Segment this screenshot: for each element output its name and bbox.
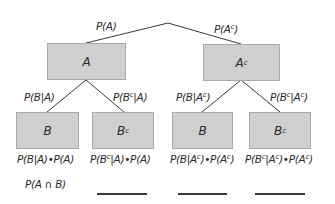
product-text: ) xyxy=(309,153,313,165)
edge-label-text: P(B xyxy=(113,91,130,103)
node-B-under-A: B xyxy=(16,112,79,149)
edge-label-P-Ac: P(Ac) xyxy=(214,23,238,35)
edge-label-P-Bc-given-Ac: P(Bc|Ac) xyxy=(270,91,308,103)
node-label: A xyxy=(235,56,243,70)
product-text: P(B|A)•P(A) xyxy=(17,153,74,165)
edge-label-text: P(B|A) xyxy=(24,91,55,103)
edge-label-text: P(A xyxy=(214,23,231,35)
edge-label-text: |A xyxy=(290,91,300,103)
edge-label-P-Bc-given-A: P(Bc|A) xyxy=(113,91,147,103)
edge-label-P-A: P(A) xyxy=(96,20,117,32)
product-text: P(B|A xyxy=(170,153,197,165)
edge-label-text: |A) xyxy=(133,91,147,103)
answer-blank-2[interactable] xyxy=(178,193,227,195)
node-B-under-Ac: B xyxy=(172,112,233,149)
node-label: B xyxy=(43,124,51,138)
edge-label-text: P(B xyxy=(270,91,287,103)
edge-label-text: P(A) xyxy=(96,20,117,32)
product-text: P(B xyxy=(245,153,262,165)
edge-label-text: ) xyxy=(304,91,308,103)
edge-label-P-B-given-A: P(B|A) xyxy=(24,91,55,103)
product-text: ) xyxy=(230,153,234,165)
product-label-4: P(Bc|Ac)•P(Ac) xyxy=(245,153,313,165)
node-label: B xyxy=(198,124,206,138)
node-label: B xyxy=(274,124,282,138)
node-label: A xyxy=(82,55,90,69)
node-A: A xyxy=(47,43,126,80)
node-Bc-under-Ac: Bc xyxy=(249,112,311,149)
product-text: |A)•P(A) xyxy=(110,153,150,165)
answer-blank-3[interactable] xyxy=(255,193,305,195)
product-label-2: P(Bc|A)•P(A) xyxy=(90,153,151,165)
product-text: )•P(A xyxy=(279,153,305,165)
product-label-3: P(B|Ac)•P(Ac) xyxy=(170,153,234,165)
answer-blank-1[interactable] xyxy=(97,193,147,195)
node-Bc-under-A: Bc xyxy=(92,112,154,149)
edge-label-text: ) xyxy=(206,91,210,103)
node-Ac: Ac xyxy=(203,44,280,81)
edge-label-P-B-given-Ac: P(B|Ac) xyxy=(176,91,210,103)
product-text: |A xyxy=(265,153,275,165)
product-label-1: P(B|A)•P(A) xyxy=(17,153,74,165)
edge-label-text: P(B|A xyxy=(176,91,203,103)
intersection-text: P(A ∩ B) xyxy=(25,178,66,190)
product-text: )•P(A xyxy=(200,153,226,165)
product-text: P(B xyxy=(90,153,107,165)
intersection-label: P(A ∩ B) xyxy=(25,178,66,190)
edge-label-text: ) xyxy=(234,23,238,35)
node-label: B xyxy=(117,124,125,138)
